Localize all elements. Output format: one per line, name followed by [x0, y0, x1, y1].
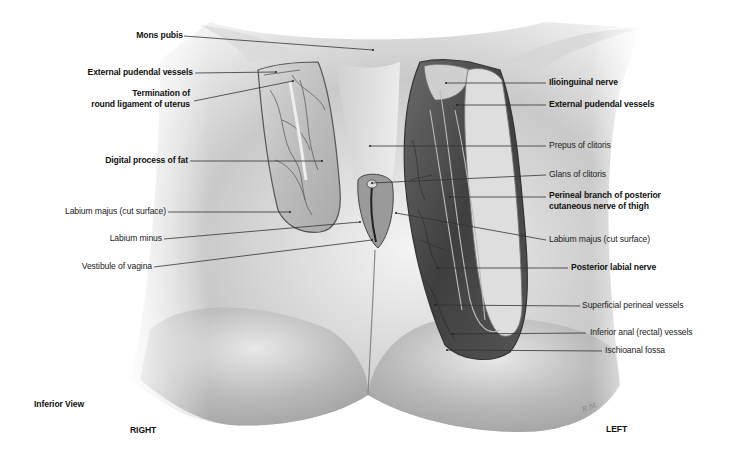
- label-external-pudendal-vessels-right: External pudendal vessels: [88, 67, 193, 78]
- label-labium-majus-cut-left: Labium majus (cut surface): [549, 234, 650, 245]
- label-inferior-anal-vessels: Inferior anal (rectal) vessels: [590, 327, 693, 338]
- orientation-left: LEFT: [606, 424, 627, 435]
- label-labium-majus-cut-right: Labium majus (cut surface): [65, 206, 166, 217]
- orientation-right: RIGHT: [130, 425, 156, 436]
- label-line-1: Perineal branch of posterior: [549, 190, 661, 201]
- label-external-pudendal-vessels-left: External pudendal vessels: [549, 99, 654, 110]
- label-superficial-perineal-vessels: Superficial perineal vessels: [582, 300, 683, 311]
- label-posterior-labial-nerve: Posterior labial nerve: [571, 262, 656, 273]
- label-labium-minus: Labium minus: [110, 233, 162, 244]
- label-mons-pubis: Mons pubis: [136, 30, 183, 41]
- label-prepuce-of-clitoris: Prepus of clitoris: [549, 140, 611, 151]
- label-ischioanal-fossa: Ischioanal fossa: [605, 345, 665, 356]
- label-line-2: cutaneous nerve of thigh: [549, 201, 661, 212]
- label-glans-of-clitoris: Glans of clitoris: [549, 169, 606, 180]
- label-termination-round-ligament: Termination of round ligament of uterus: [91, 88, 190, 110]
- view-label: Inferior View: [34, 399, 84, 410]
- label-digital-process-of-fat: Digital process of fat: [105, 155, 188, 166]
- label-vestibule-of-vagina: Vestibule of vagina: [82, 261, 152, 272]
- label-perineal-branch: Perineal branch of posterior cutaneous n…: [549, 190, 661, 212]
- label-ilioinguinal-nerve: Ilioinguinal nerve: [549, 77, 618, 88]
- anatomical-illustration: R.M.: [0, 0, 733, 466]
- label-line-1: Termination of: [91, 88, 190, 99]
- label-line-2: round ligament of uterus: [91, 99, 190, 110]
